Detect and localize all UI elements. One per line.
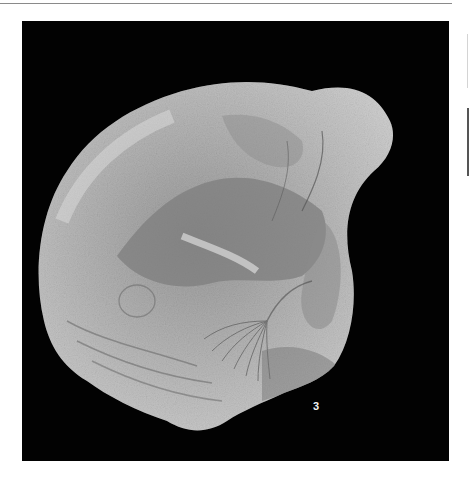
- margin-edge-line: [467, 34, 468, 88]
- top-rule-line: [0, 3, 452, 4]
- specimen-plate: 3: [22, 21, 449, 461]
- figure-number-label: 3: [313, 400, 319, 412]
- fossil-specimen-image: [22, 21, 449, 461]
